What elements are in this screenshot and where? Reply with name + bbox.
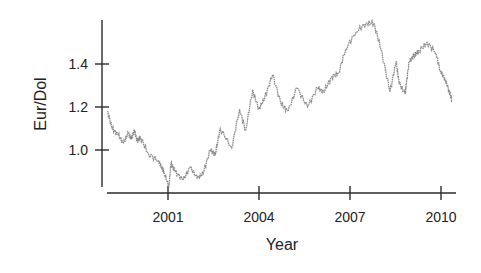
x-axis-title: Year (266, 236, 299, 253)
y-tick-label: 1.2 (69, 99, 89, 115)
x-tick-label: 2007 (334, 209, 365, 225)
x-tick-label: 2004 (243, 209, 274, 225)
x-tick-label: 2010 (425, 209, 456, 225)
plot-area (107, 21, 452, 188)
y-tick-label: 1.4 (69, 56, 89, 72)
data-series-line (107, 21, 452, 188)
line-chart: 1.01.21.4 Eur/Dol 2001200420072010 Year (0, 0, 481, 273)
y-ticks: 1.01.21.4 (69, 56, 109, 158)
x-axis: 2001200420072010 Year (107, 186, 457, 253)
x-tick-label: 2001 (152, 209, 183, 225)
y-tick-label: 1.0 (69, 142, 89, 158)
y-axis: 1.01.21.4 Eur/Dol (32, 20, 109, 187)
y-axis-title: Eur/Dol (32, 77, 49, 130)
x-ticks: 2001200420072010 (152, 186, 456, 225)
